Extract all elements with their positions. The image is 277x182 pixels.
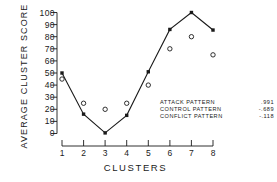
x-tick-label: 6 bbox=[164, 148, 176, 158]
legend-value: .991 bbox=[230, 99, 274, 106]
legend-label: CONTROL PATTERN bbox=[160, 106, 230, 113]
x-tick-label: 4 bbox=[121, 148, 133, 158]
data-point-square bbox=[190, 11, 193, 14]
x-tick-label: 1 bbox=[56, 148, 68, 158]
data-point-square bbox=[103, 131, 106, 134]
chart-figure: AVERAGE CLUSTER SCORE 100 90 80 70 60 50… bbox=[0, 0, 277, 182]
data-point-circle bbox=[103, 107, 107, 111]
data-point-circle bbox=[125, 101, 129, 105]
data-point-square bbox=[211, 28, 214, 31]
x-tick-label: 3 bbox=[99, 148, 111, 158]
data-point-square bbox=[82, 112, 85, 115]
x-tick-label: 7 bbox=[185, 148, 197, 158]
legend-entry: CONFLICT PATTERN -.118 bbox=[160, 113, 275, 120]
legend: ATTACK PATTERN .991 CONTROL PATTERN -.68… bbox=[160, 99, 275, 121]
data-point-circle bbox=[81, 101, 85, 105]
data-point-square bbox=[168, 28, 171, 31]
data-point-circle bbox=[211, 53, 215, 57]
legend-label: CONFLICT PATTERN bbox=[160, 113, 230, 120]
x-tick-label: 5 bbox=[142, 148, 154, 158]
legend-value: -.118 bbox=[230, 113, 274, 120]
data-point-circle bbox=[189, 35, 193, 39]
plot-area bbox=[0, 0, 277, 182]
x-tick-label: 8 bbox=[207, 148, 219, 158]
x-axis-title: CLUSTERS bbox=[57, 162, 214, 173]
x-tick-label: 2 bbox=[78, 148, 90, 158]
data-point-circle bbox=[168, 47, 172, 51]
data-point-square bbox=[147, 70, 150, 73]
data-point-square bbox=[60, 71, 63, 74]
legend-value: -.689 bbox=[230, 106, 274, 113]
data-point-circle bbox=[60, 77, 64, 81]
legend-label: ATTACK PATTERN bbox=[160, 99, 230, 106]
data-point-circle bbox=[146, 83, 150, 87]
data-point-square bbox=[125, 114, 128, 117]
legend-entry: ATTACK PATTERN .991 bbox=[160, 99, 275, 106]
legend-entry: CONTROL PATTERN -.689 bbox=[160, 106, 275, 113]
